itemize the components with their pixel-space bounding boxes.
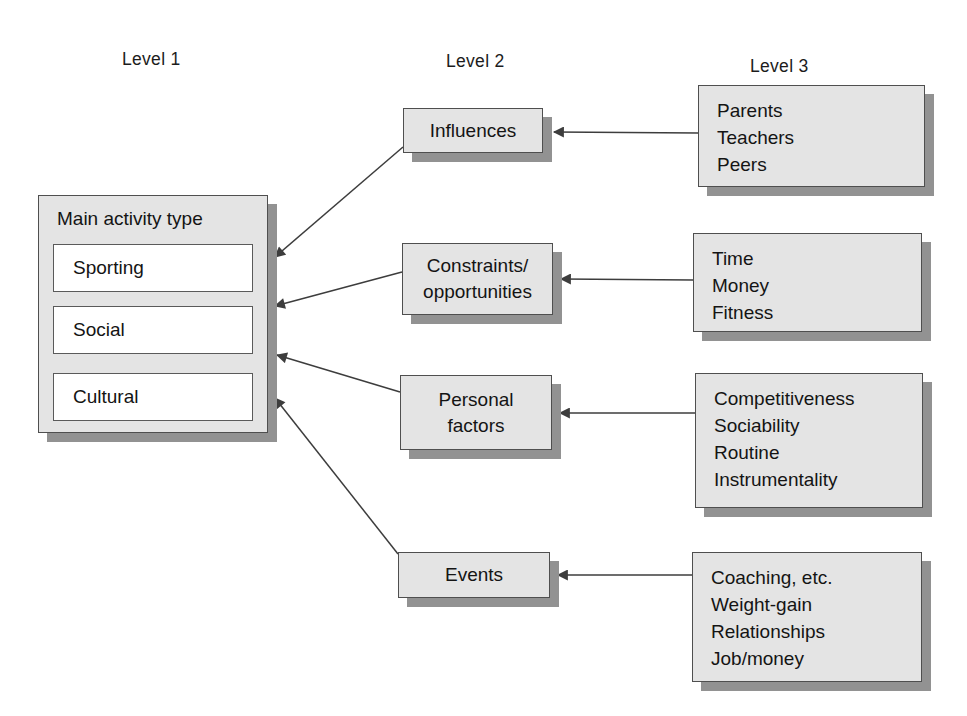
level3-box-events-items: Coaching, etc. Weight-gain Relationships… (692, 552, 922, 682)
main-activity-type-title: Main activity type (57, 208, 267, 230)
column-label-level-1: Level 1 (122, 49, 181, 70)
arrow-personal-factors-to-main (277, 355, 400, 392)
level2-box-label-line: Constraints/ (427, 253, 528, 279)
activity-item-label: Sporting (73, 257, 144, 279)
arrow-parents-to-influences (554, 132, 698, 133)
level3-item: Teachers (717, 124, 916, 151)
level3-item: Job/money (711, 645, 913, 672)
level2-box-influences: Influences (403, 108, 543, 153)
level3-item: Routine (714, 439, 914, 466)
activity-item-label: Cultural (73, 386, 138, 408)
level3-item: Coaching, etc. (711, 564, 913, 591)
level3-item: Parents (717, 97, 916, 124)
level3-item: Money (712, 272, 913, 299)
level3-box-constraints-items: Time Money Fitness (693, 233, 922, 332)
level3-item: Relationships (711, 618, 913, 645)
level2-box-personal-factors: Personal factors (400, 375, 552, 450)
column-label-level-3: Level 3 (750, 56, 809, 77)
level2-box-label: Influences (430, 118, 517, 144)
level3-item: Time (712, 245, 913, 272)
level3-item: Peers (717, 151, 916, 178)
level3-item: Fitness (712, 299, 913, 326)
level3-item: Weight-gain (711, 591, 913, 618)
activity-item-cultural: Cultural (53, 373, 253, 421)
level2-box-constraints-opportunities: Constraints/ opportunities (402, 243, 553, 315)
level2-box-label-line: Personal (439, 387, 514, 413)
diagram-canvas: Level 1 Level 2 Level 3 Main activity ty… (0, 0, 967, 716)
arrow-influences-to-main (275, 147, 403, 257)
activity-item-sporting: Sporting (53, 244, 253, 292)
level3-item: Instrumentality (714, 466, 914, 493)
main-activity-type-box: Main activity type Sporting Social Cultu… (38, 195, 268, 433)
level3-item: Competitiveness (714, 385, 914, 412)
arrow-constraints-to-main (275, 272, 402, 306)
level3-box-influences-items: Parents Teachers Peers (698, 85, 925, 187)
level3-item: Sociability (714, 412, 914, 439)
arrow-events-to-main (275, 398, 398, 554)
level3-box-personal-items: Competitiveness Sociability Routine Inst… (695, 373, 923, 508)
arrow-time-to-constraints (561, 279, 693, 280)
level2-box-label-line: opportunities (423, 279, 532, 305)
level2-box-label-line: factors (447, 413, 504, 439)
column-label-level-2: Level 2 (446, 51, 505, 72)
activity-item-label: Social (73, 319, 125, 341)
level2-box-label: Events (445, 562, 503, 588)
activity-item-social: Social (53, 306, 253, 354)
level2-box-events: Events (398, 552, 550, 598)
